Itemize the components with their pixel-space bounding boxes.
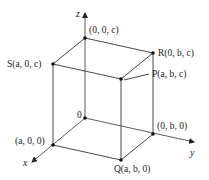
point-xpt-dot (51, 143, 55, 147)
edge-S-P (53, 64, 121, 79)
point-zc-dot (83, 36, 87, 40)
pointer-P (124, 74, 149, 80)
edge-xpt-Q (53, 145, 121, 160)
coordinate-box-diagram: z x y (0, 0, c) S(a, 0, c) R(0, b, c) P(… (0, 0, 209, 180)
point-R-dot (151, 51, 155, 55)
edge-ypt-Q (121, 134, 153, 160)
z-axis-label: z (75, 8, 80, 19)
label-zc: (0, 0, c) (89, 25, 119, 36)
point-ypt-dot (151, 132, 155, 136)
origin-dot (83, 116, 87, 120)
edge-zc-R (85, 38, 153, 53)
x-axis-label: x (22, 157, 28, 168)
label-R: R(0, b, c) (158, 48, 194, 59)
y-axis-label: y (189, 147, 195, 158)
edge-zc-S (53, 38, 85, 64)
label-S: S(a, 0, c) (7, 59, 41, 70)
point-Q-dot (119, 158, 123, 162)
label-ypt: (0, b, 0) (157, 121, 187, 132)
label-Q: Q(a, b, 0) (114, 164, 150, 175)
point-P-dot (119, 77, 123, 81)
label-origin: 0 (77, 110, 82, 120)
edge-R-P (121, 53, 153, 79)
label-P: P(a, b, c) (152, 69, 186, 80)
label-xpt: (a, 0, 0) (15, 136, 45, 147)
point-S-dot (51, 62, 55, 66)
